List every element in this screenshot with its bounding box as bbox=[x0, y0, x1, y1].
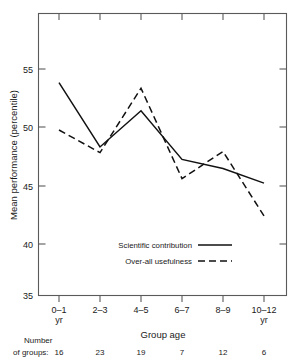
series-line-overall-usefulness bbox=[59, 88, 264, 216]
y-axis-title: Mean performance (percentile) bbox=[8, 90, 19, 220]
group-count-2: 19 bbox=[137, 348, 146, 357]
number-of-groups-label-line1: Number bbox=[24, 336, 53, 345]
y-axis-ticks-right bbox=[280, 69, 287, 244]
x-tick-label-4-line1: 8–9 bbox=[215, 305, 230, 315]
x-tick-label-0-line2: yr bbox=[55, 315, 63, 325]
x-tick-label-5-line1: 10–12 bbox=[251, 305, 276, 315]
y-tick-label-40: 40 bbox=[23, 240, 33, 250]
group-count-4: 12 bbox=[219, 348, 228, 357]
legend-label-overall-usefulness: Over-all usefulness bbox=[125, 257, 192, 266]
y-tick-label-45: 45 bbox=[23, 182, 33, 192]
x-tick-label-1-line1: 2–3 bbox=[92, 305, 107, 315]
y-tick-label-50: 50 bbox=[23, 123, 33, 133]
chart-figure: 55 50 45 40 35 Mean performance (percent… bbox=[0, 0, 302, 361]
x-axis-ticks-bottom bbox=[59, 296, 264, 303]
x-axis-ticks-top bbox=[59, 14, 264, 21]
x-tick-label-5-line2: yr bbox=[260, 315, 268, 325]
number-of-groups-label-line2: of groups: bbox=[13, 348, 49, 357]
chart-legend: Scientific contribution Over-all usefuln… bbox=[118, 241, 232, 266]
x-tick-label-2-line1: 4–5 bbox=[133, 305, 148, 315]
x-tick-label-0-line1: 0–1 bbox=[51, 305, 66, 315]
plot-frame bbox=[39, 14, 287, 296]
x-tick-label-3-line1: 6–7 bbox=[174, 305, 189, 315]
group-count-5: 6 bbox=[262, 348, 267, 357]
group-count-1: 23 bbox=[96, 348, 105, 357]
group-count-0: 16 bbox=[55, 348, 64, 357]
line-chart-svg: 55 50 45 40 35 Mean performance (percent… bbox=[0, 0, 302, 361]
y-tick-label-35: 35 bbox=[23, 291, 33, 301]
legend-label-scientific-contribution: Scientific contribution bbox=[118, 241, 192, 250]
y-tick-label-55: 55 bbox=[23, 65, 33, 75]
y-axis-ticks-left bbox=[39, 69, 46, 244]
x-axis-title: Group age bbox=[141, 329, 186, 340]
group-count-3: 7 bbox=[180, 348, 185, 357]
